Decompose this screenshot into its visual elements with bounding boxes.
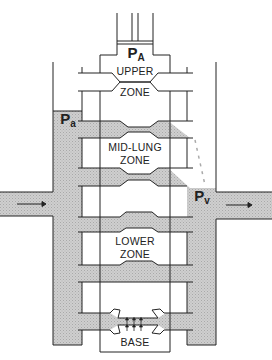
base-label: BASE [100, 337, 170, 348]
outlines [0, 13, 272, 352]
upper-zone-label-line1: UPPER [100, 66, 170, 77]
mid-lung-zone-label-line1: MID-LUNG [100, 142, 170, 153]
lower-zone-label-line2: ZONE [100, 249, 170, 260]
mid-lung-zone-label-line2: ZONE [100, 155, 170, 166]
arterial-side [0, 111, 82, 345]
alveolar-pressure-label: PA [126, 45, 146, 63]
upper-zone-label-line2: ZONE [100, 87, 170, 98]
arterial-pressure-label: Pa [58, 111, 78, 129]
lower-zone-label-line1: LOWER [100, 236, 170, 247]
venous-side [187, 188, 272, 345]
venous-pressure-label: Pv [192, 188, 212, 206]
venous-waterfall-dash [195, 140, 205, 185]
